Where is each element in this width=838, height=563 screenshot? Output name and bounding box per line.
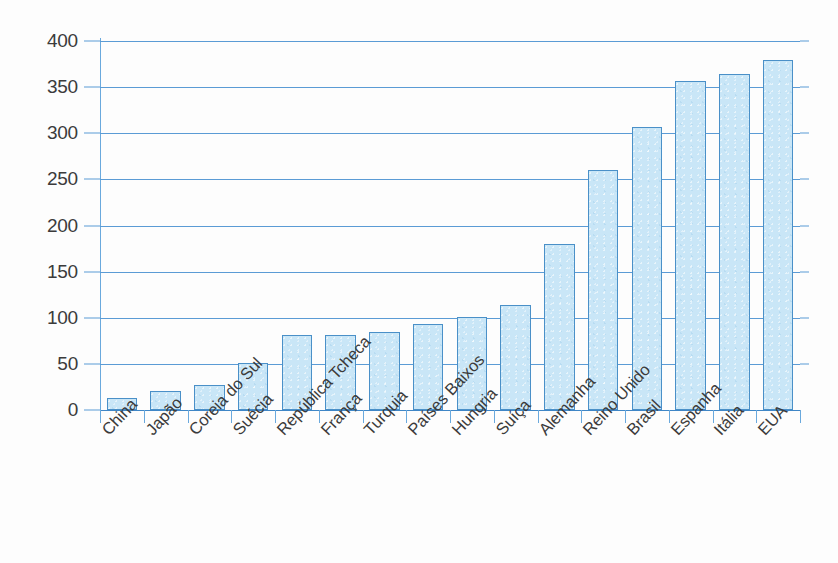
y-tick-mark-right bbox=[800, 133, 809, 134]
y-tick-mark-right bbox=[800, 363, 809, 364]
x-tick-mark bbox=[319, 410, 320, 423]
y-tick-mark-right bbox=[800, 41, 809, 42]
x-tick-mark bbox=[669, 410, 670, 423]
y-tick-mark bbox=[84, 41, 100, 42]
bar-chart: 050100150200250300350400 ChinaJapãoCorei… bbox=[0, 0, 838, 563]
y-tick-label: 150 bbox=[22, 261, 78, 283]
bar bbox=[500, 305, 531, 410]
y-tick-label: 200 bbox=[22, 215, 78, 237]
y-tick-label: 300 bbox=[22, 122, 78, 144]
gridline-400 bbox=[100, 41, 800, 42]
y-tick-mark bbox=[84, 87, 100, 88]
y-tick-mark bbox=[84, 133, 100, 134]
y-tick-mark-right bbox=[800, 179, 809, 180]
bar bbox=[588, 170, 619, 410]
y-tick-mark-right bbox=[800, 317, 809, 318]
y-tick-mark bbox=[84, 317, 100, 318]
y-tick-label: 250 bbox=[22, 168, 78, 190]
y-tick-mark bbox=[84, 271, 100, 272]
y-tick-mark bbox=[84, 179, 100, 180]
y-tick-mark-right bbox=[800, 87, 809, 88]
bar bbox=[719, 74, 750, 410]
x-tick-mark bbox=[144, 410, 145, 423]
y-tick-mark-right bbox=[800, 225, 809, 226]
bar bbox=[544, 244, 575, 410]
y-tick-label: 50 bbox=[22, 353, 78, 375]
bar bbox=[763, 60, 794, 410]
y-tick-label: 400 bbox=[22, 30, 78, 52]
plot-area bbox=[100, 41, 800, 410]
y-tick-label: 0 bbox=[22, 399, 78, 421]
y-tick-label: 350 bbox=[22, 76, 78, 98]
x-tick-mark bbox=[800, 410, 801, 423]
y-tick-mark bbox=[84, 363, 100, 364]
y-tick-label: 100 bbox=[22, 307, 78, 329]
x-tick-mark bbox=[494, 410, 495, 423]
y-tick-mark bbox=[84, 410, 100, 411]
bar bbox=[675, 81, 706, 410]
y-tick-mark-right bbox=[800, 271, 809, 272]
y-tick-mark bbox=[84, 225, 100, 226]
